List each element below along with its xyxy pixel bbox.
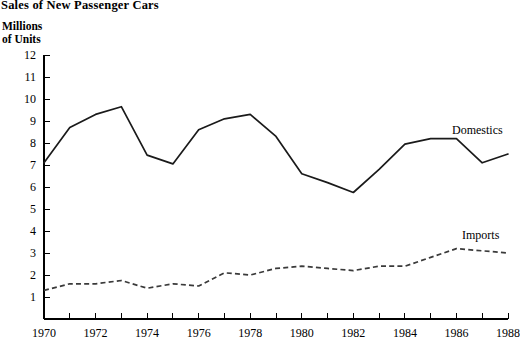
y-tick-label: 9 [30, 114, 36, 128]
x-axis-tick-labels: 1970197219741976197819801982198419861988 [32, 326, 520, 339]
y-axis-tick-marks [44, 55, 50, 297]
x-tick-label: 1984 [393, 326, 417, 339]
chart-container: l Sales of New Passenger Cars Millions o… [0, 0, 520, 339]
series-label-imports: Imports [462, 228, 500, 242]
x-tick-label: 1978 [238, 326, 262, 339]
x-tick-label: 1988 [496, 326, 520, 339]
y-tick-label: 1 [30, 290, 36, 304]
series-line-domestics [44, 107, 508, 193]
y-tick-label: 2 [30, 268, 36, 282]
x-tick-label: 1972 [84, 326, 108, 339]
y-tick-label: 12 [24, 48, 36, 62]
chart-plot-area: 123456789101112 197019721974197619781980… [0, 0, 520, 339]
x-tick-label: 1974 [135, 326, 159, 339]
series-line-imports [44, 249, 508, 291]
y-tick-label: 8 [30, 136, 36, 150]
series-label-domestics: Domestics [452, 123, 503, 137]
x-tick-label: 1980 [290, 326, 314, 339]
x-axis-tick-marks [44, 313, 508, 319]
y-tick-label: 6 [30, 180, 36, 194]
y-axis-tick-labels: 123456789101112 [24, 48, 36, 304]
x-tick-label: 1976 [187, 326, 211, 339]
y-tick-label: 5 [30, 202, 36, 216]
x-tick-label: 1982 [341, 326, 365, 339]
x-tick-label: 1970 [32, 326, 56, 339]
x-tick-label: 1986 [444, 326, 468, 339]
y-tick-label: 11 [24, 70, 36, 84]
y-tick-label: 3 [30, 246, 36, 260]
y-tick-label: 7 [30, 158, 36, 172]
y-tick-label: 10 [24, 92, 36, 106]
y-tick-label: 4 [30, 224, 36, 238]
